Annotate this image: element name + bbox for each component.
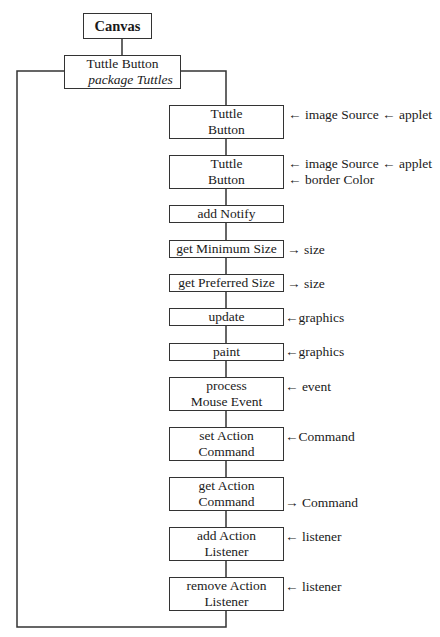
annotation: ←Command <box>285 429 355 445</box>
method-node-get-preferred-size: get Preferred Size <box>169 274 284 292</box>
annotation: ← image Source ← applet <box>288 156 432 172</box>
method-node-add-action-listener: add Action Listener <box>169 527 284 561</box>
method-label-line2: Mouse Event <box>191 394 263 410</box>
annotation: ← border Color <box>288 172 374 188</box>
method-label-line1: get Minimum Size <box>176 241 277 257</box>
annotation: → size <box>287 242 325 258</box>
method-label-line2: Command <box>198 494 254 510</box>
method-label-line1: get Preferred Size <box>178 275 275 291</box>
annotation: ←graphics <box>285 344 344 360</box>
annotation: → size <box>287 276 325 292</box>
method-node-set-action-command: set Action Command <box>169 427 284 461</box>
method-label-line2: Button <box>208 172 245 188</box>
method-label-line1: Tuttle <box>211 156 243 172</box>
annotation: ← listener <box>285 529 342 545</box>
method-node-process-mouse-event: process Mouse Event <box>169 377 284 411</box>
canvas-label: Canvas <box>95 18 141 34</box>
method-label-line2: Listener <box>204 544 248 560</box>
method-node-add-notify: add Notify <box>169 205 284 223</box>
method-node-constructor-2: Tuttle Button <box>169 155 284 189</box>
method-label-line1: add Notify <box>197 206 255 222</box>
package-label: package Tuttles <box>72 72 172 88</box>
class-title: Tuttle Button <box>87 56 159 72</box>
method-node-get-minimum-size: get Minimum Size <box>169 240 284 258</box>
annotation: ←graphics <box>285 310 344 326</box>
method-label-line1: remove Action <box>187 578 267 594</box>
method-label-line1: update <box>209 309 245 325</box>
method-label-line2: Command <box>198 444 254 460</box>
method-label-line1: process <box>206 378 247 394</box>
method-label-line1: paint <box>213 344 240 360</box>
canvas-node: Canvas <box>83 13 152 39</box>
method-node-constructor-1: Tuttle Button <box>169 105 284 139</box>
method-label-line1: set Action <box>199 428 253 444</box>
method-label-line1: add Action <box>197 528 256 544</box>
annotation: ← event <box>285 379 331 395</box>
annotation: → Command <box>285 495 358 511</box>
method-label-line1: Tuttle <box>211 106 243 122</box>
method-node-get-action-command: get Action Command <box>169 477 284 511</box>
annotation: ← listener <box>285 579 342 595</box>
method-label-line1: get Action <box>199 478 255 494</box>
method-node-remove-action-listener: remove Action Listener <box>169 577 284 611</box>
method-node-paint: paint <box>169 343 284 361</box>
method-label-line2: Listener <box>204 594 248 610</box>
method-label-line2: Button <box>208 122 245 138</box>
tuttle-button-class-node: Tuttle Button package Tuttles <box>64 55 181 89</box>
annotation: ← image Source ← applet <box>288 107 432 123</box>
method-node-update: update <box>169 308 284 326</box>
